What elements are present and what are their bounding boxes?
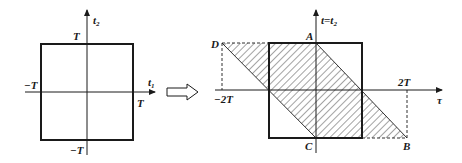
diagram-canvas: t2 t1 T −T −T T t=t2 τ −2T 2T A B C D bbox=[0, 0, 462, 163]
right-t-axis-label: t=t2 bbox=[321, 14, 337, 28]
left-top-label: T bbox=[73, 30, 81, 42]
point-c-label: C bbox=[305, 140, 313, 152]
right-arrow-icon bbox=[167, 84, 198, 100]
point-a-label: A bbox=[305, 30, 313, 42]
left-bottom-label: −T bbox=[70, 144, 85, 156]
right-tau-axis-label: τ bbox=[437, 94, 443, 106]
left-left-label: −T bbox=[24, 79, 39, 91]
right-diagram: t=t2 τ −2T 2T A B C D bbox=[210, 10, 443, 153]
left-tick-minus-2t: −2T bbox=[214, 93, 234, 105]
left-diagram: t2 t1 T −T −T T bbox=[24, 10, 155, 156]
left-y-axis-label: t2 bbox=[93, 14, 100, 28]
point-d-label: D bbox=[210, 38, 219, 50]
left-x-axis-label: t1 bbox=[148, 76, 155, 90]
left-right-label: T bbox=[137, 97, 145, 109]
point-b-label: B bbox=[402, 140, 410, 152]
right-tick-2t: 2T bbox=[397, 76, 412, 88]
